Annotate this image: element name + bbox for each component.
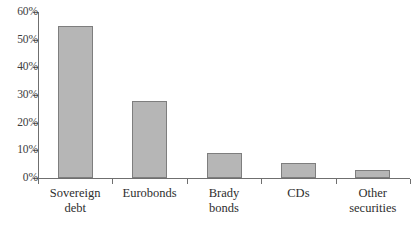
y-tick-label: 20% — [6, 117, 38, 129]
x-tick-mark — [187, 179, 188, 184]
x-axis-line — [38, 178, 410, 179]
y-tick-label: 0% — [6, 172, 38, 184]
bar — [281, 163, 316, 178]
x-tick-mark — [38, 179, 39, 184]
bar — [132, 101, 167, 178]
y-axis-line — [38, 12, 39, 179]
bar — [207, 153, 242, 178]
x-tick-mark — [112, 179, 113, 184]
y-tick-label: 60% — [6, 6, 38, 18]
x-tick-mark — [410, 179, 411, 184]
x-tick-mark — [261, 179, 262, 184]
y-tick-label: 10% — [6, 144, 38, 156]
y-tick-label: 30% — [6, 89, 38, 101]
x-category-label: Sovereign debt — [38, 186, 112, 216]
bar — [58, 26, 93, 178]
y-tick-label: 40% — [6, 61, 38, 73]
x-category-label: Other securities — [336, 186, 410, 216]
x-category-label: CDs — [261, 186, 335, 201]
y-tick-label: 50% — [6, 34, 38, 46]
bar-chart: 0%10%20%30%40%50%60% Sovereign debtEurob… — [0, 0, 418, 225]
x-tick-mark — [336, 179, 337, 184]
x-category-label: Eurobonds — [112, 186, 186, 201]
bar — [355, 170, 390, 178]
x-category-label: Brady bonds — [187, 186, 261, 216]
